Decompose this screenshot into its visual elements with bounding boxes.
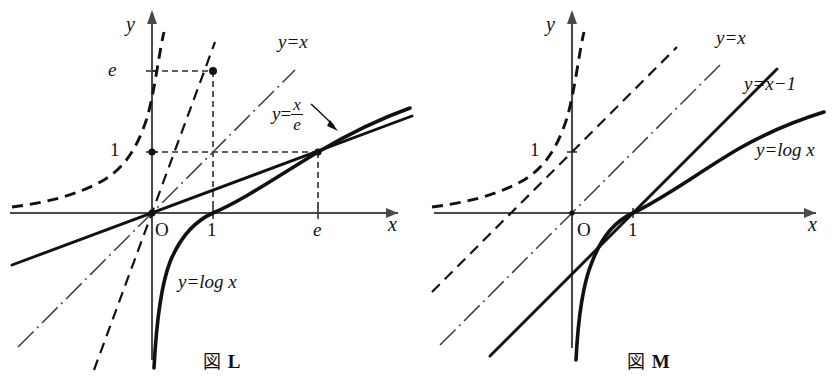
x-tick-label-1-m: 1: [628, 220, 638, 239]
series-curve-y-equals-log-l: [154, 108, 410, 368]
caption-kanji-m: 図: [627, 351, 646, 372]
figure-sheet: y x e 1 O 1 e y=x y=xe y=log x 図 L: [0, 0, 836, 381]
y-axis-arrowhead-l: [147, 10, 157, 24]
series-line-y-equals-x-l: [18, 70, 295, 347]
caption-id-m: M: [652, 351, 671, 372]
caption-id-l: L: [228, 351, 242, 372]
point-e-1-l: [314, 148, 321, 155]
point-0-1-l: [148, 148, 155, 155]
figure-panel-l: y x e 1 O 1 e y=x y=xe y=log x 図 L: [0, 0, 420, 381]
fraction-numerator-l: x: [291, 96, 303, 115]
frac-equals-l: =: [280, 103, 291, 124]
annotation-y-equals-log-x-l: y=log x: [178, 272, 237, 291]
annotation-y-equals-x-over-e-l: y=xe: [272, 97, 303, 134]
x-tick-label-e-l: e: [313, 220, 321, 239]
fraction-x-over-e-l: xe: [291, 96, 303, 133]
series-curve-y-equals-exp-m: [432, 32, 584, 207]
y-tick-label-1-l: 1: [110, 140, 120, 159]
annotation-y-equals-x-m: y=x: [716, 28, 746, 47]
point-1-e-l: [209, 67, 217, 75]
x-axis-label-l: x: [388, 214, 397, 234]
series-line-y-equals-x-plus-1-m: [432, 47, 677, 292]
figure-l-plot: [0, 0, 420, 381]
figure-panel-m: y x 1 O 1 y=x y=x−1 y=log x 図 M: [420, 0, 836, 381]
point-origin-m: [569, 210, 574, 215]
figure-caption-m: 図 M: [627, 347, 671, 373]
point-origin-l: [148, 209, 155, 216]
series-curve-y-equals-exp-l: [12, 32, 164, 207]
figure-caption-l: 図 L: [203, 347, 241, 373]
y-tick-label-1-m: 1: [530, 140, 540, 159]
y-axis-label-l: y: [126, 14, 135, 34]
series-line-y-equals-x-over-e-l: [12, 116, 412, 265]
caption-kanji-l: 図: [203, 351, 222, 372]
fraction-denominator-l: e: [291, 115, 303, 133]
y-tick-label-e-l: e: [108, 60, 116, 79]
origin-label-l: O: [155, 220, 169, 239]
x-tick-label-1-l: 1: [207, 220, 217, 239]
y-axis-arrowhead-m: [567, 10, 577, 24]
x-axis-label-m: x: [808, 214, 817, 234]
figure-m-plot: [420, 0, 836, 381]
origin-label-m: O: [577, 220, 591, 239]
y-axis-label-m: y: [546, 14, 555, 34]
annotation-y-equals-log-x-m: y=log x: [756, 140, 815, 159]
annotation-y-equals-x-minus-1-m: y=x−1: [744, 74, 796, 93]
annotation-y-equals-x-l: y=x: [278, 32, 308, 51]
